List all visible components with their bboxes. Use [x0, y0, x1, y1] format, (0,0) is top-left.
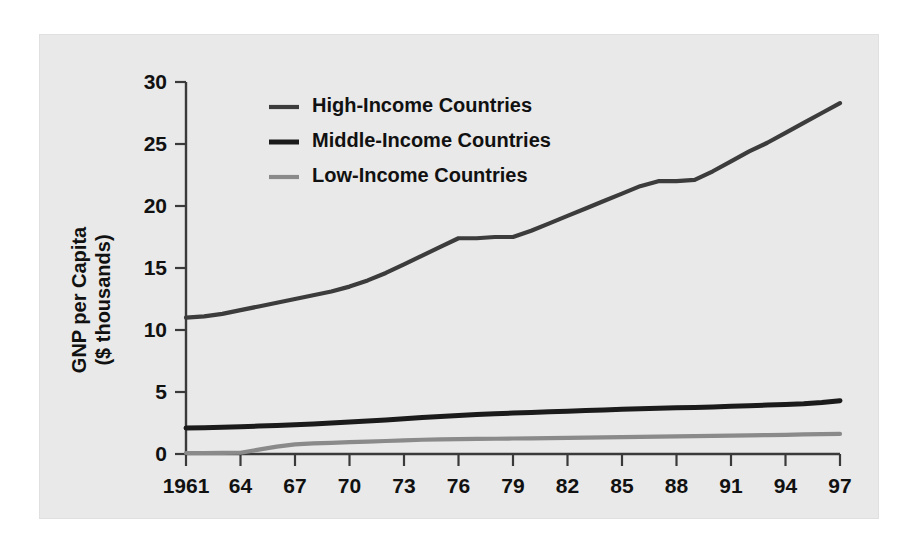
- y-axis-title-line2: ($ thousands): [92, 234, 114, 365]
- y-axis-title: GNP per Capita ($ thousands): [68, 226, 114, 373]
- series-line-low-income-countries: [186, 434, 840, 453]
- x-tick-label: 88: [665, 474, 689, 497]
- y-tick-label: 25: [144, 132, 168, 155]
- x-tick-label: 82: [556, 474, 579, 497]
- data-series-group: [186, 103, 840, 453]
- y-tick-label: 30: [144, 70, 167, 93]
- x-tick-label: 64: [229, 474, 253, 497]
- chart-panel: GNP per Capita ($ thousands) 05101520253…: [40, 35, 878, 518]
- legend-label: Low-Income Countries: [312, 164, 528, 186]
- line-chart: GNP per Capita ($ thousands) 05101520253…: [40, 35, 878, 518]
- x-tick-label: 97: [828, 474, 851, 497]
- legend-label: Middle-Income Countries: [312, 129, 551, 151]
- y-tick-label: 20: [144, 194, 167, 217]
- series-line-middle-income-countries: [186, 401, 840, 428]
- y-axis-title-line1: GNP per Capita: [68, 226, 90, 373]
- y-tick-label: 5: [155, 380, 167, 403]
- x-tick-label: 67: [283, 474, 306, 497]
- x-tick-label: 91: [719, 474, 743, 497]
- x-tick-label: 70: [338, 474, 361, 497]
- y-tick-label: 15: [144, 256, 168, 279]
- x-tick-label: 94: [774, 474, 798, 497]
- x-tick-label: 76: [447, 474, 470, 497]
- figure-root: GNP per Capita ($ thousands) 05101520253…: [0, 0, 920, 548]
- x-tick-label: 73: [392, 474, 415, 497]
- y-tick-label: 10: [144, 318, 167, 341]
- x-tick-label: 85: [610, 474, 634, 497]
- chart-legend: High-Income CountriesMiddle-Income Count…: [269, 94, 551, 186]
- y-tick-label: 0: [155, 442, 167, 465]
- y-axis: 051015202530: [144, 70, 186, 465]
- x-tick-label: 79: [501, 474, 524, 497]
- legend-label: High-Income Countries: [312, 94, 532, 116]
- x-axis: 1961646770737679828588919497: [163, 454, 852, 497]
- x-tick-label: 1961: [163, 474, 210, 497]
